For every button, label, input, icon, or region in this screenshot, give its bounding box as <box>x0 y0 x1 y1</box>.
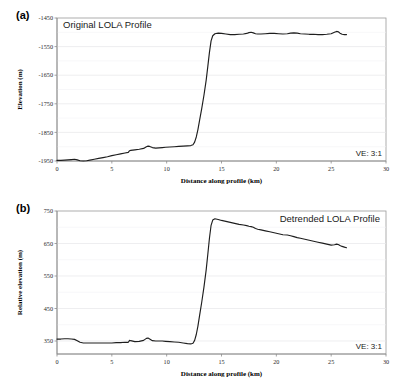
x-axis-tick-label: 10 <box>164 165 170 172</box>
lola-profile-figure: (a) -1450-1550-1650-1750-1850-1950051015… <box>0 0 403 391</box>
y-axis-tick-label: -1950 <box>39 157 53 164</box>
panel-a-chart: -1450-1550-1650-1750-1850-19500510152025… <box>0 0 403 196</box>
y-axis-tick-label: -1750 <box>39 100 53 107</box>
panel-a-label: (a) <box>16 9 29 21</box>
x-axis-tick-label: 0 <box>55 358 58 365</box>
y-axis-tick-label: 550 <box>44 272 53 279</box>
x-axis-tick-label: 15 <box>218 358 224 365</box>
x-axis-tick-label: 30 <box>383 358 389 365</box>
chart-title: Original LOLA Profile <box>63 19 152 30</box>
x-axis-tick-label: 0 <box>55 165 58 172</box>
panel-b-detrended-profile: (b) 350450550650750051015202530Detrended… <box>0 195 403 391</box>
x-axis-tick-label: 10 <box>164 358 170 365</box>
panel-b-label: (b) <box>16 202 30 214</box>
y-axis-tick-label: 450 <box>44 305 53 312</box>
y-axis-tick-label: -1450 <box>39 14 53 21</box>
x-axis-tick-label: 20 <box>273 165 279 172</box>
panel-b-chart: 350450550650750051015202530Detrended LOL… <box>0 195 403 391</box>
y-axis-tick-label: 350 <box>44 337 53 344</box>
y-axis-tick-label: -1650 <box>39 71 53 78</box>
vertical-exaggeration-label: VE: 3:1 <box>356 149 383 158</box>
x-axis-tick-label: 5 <box>110 358 113 365</box>
x-axis-tick-label: 30 <box>383 165 389 172</box>
y-axis-tick-label: -1850 <box>39 129 53 136</box>
x-axis-tick-label: 25 <box>328 165 334 172</box>
chart-title: Detrended LOLA Profile <box>280 213 380 224</box>
x-axis-title: Distance along profile (km) <box>181 370 263 378</box>
x-axis-tick-label: 5 <box>110 165 113 172</box>
x-axis-tick-label: 15 <box>218 165 224 172</box>
panel-a-original-profile: (a) -1450-1550-1650-1750-1850-1950051015… <box>0 0 403 196</box>
y-axis-tick-label: -1550 <box>39 43 53 50</box>
x-axis-tick-label: 25 <box>328 358 334 365</box>
y-axis-tick-label: 750 <box>44 207 53 214</box>
y-axis-title: Relative elevation (m) <box>16 249 24 315</box>
x-axis-title: Distance along profile (km) <box>181 177 263 185</box>
plot-area <box>57 211 386 354</box>
vertical-exaggeration-label: VE: 3:1 <box>356 342 383 351</box>
y-axis-tick-label: 650 <box>44 240 53 247</box>
x-axis-tick-label: 20 <box>273 358 279 365</box>
y-axis-title: Elevation (m) <box>16 69 24 110</box>
